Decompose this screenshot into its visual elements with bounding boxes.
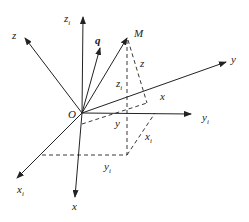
- x-axis-label: x: [71, 200, 77, 212]
- y-axis: [82, 62, 226, 113]
- origin-label: O: [68, 108, 76, 120]
- coordinate-diagram: O zi z y yi xi x q M zi z x y xi yi: [0, 0, 249, 222]
- zi-axis: [82, 17, 83, 113]
- z-axis-label: z: [11, 29, 17, 41]
- y-axis-label: y: [230, 53, 236, 65]
- xi-component-label: xi: [144, 130, 152, 145]
- dashed-xi: [127, 113, 155, 155]
- M-vector: [82, 38, 127, 113]
- yi-axis-label: yi: [201, 111, 209, 126]
- x-component-label: x: [159, 90, 165, 102]
- xi-axis-label: xi: [16, 183, 24, 198]
- z-axis: [25, 38, 82, 113]
- yi-component-label: yi: [103, 160, 111, 175]
- z-component-label: z: [139, 57, 145, 69]
- q-vector: [82, 48, 100, 113]
- xi-axis: [17, 113, 82, 178]
- M-point-label: M: [133, 27, 144, 39]
- zi-axis-label: zi: [63, 12, 70, 27]
- y-component-label: y: [114, 117, 120, 129]
- q-vector-label: q: [95, 34, 101, 46]
- yi-axis: [82, 113, 191, 114]
- zi-component-label: zi: [115, 77, 122, 92]
